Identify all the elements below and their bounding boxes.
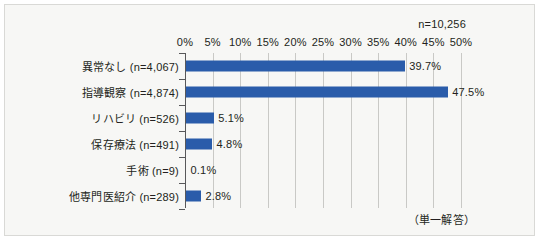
total-sample-size-label: n=10,256 [5, 18, 466, 30]
axis-tick-2 [179, 105, 185, 106]
category-label-2: リハビリ (n=526) [91, 110, 179, 126]
x-tick-label-4: 20% [284, 36, 307, 48]
category-label-1: 指導観察 (n=4,874) [82, 84, 179, 100]
category-label-0: 異常なし (n=4,067) [82, 58, 179, 74]
axis-tick-3 [179, 131, 185, 132]
answer-type-note: （単一解答） [5, 211, 475, 227]
x-tick-label-2: 10% [229, 36, 252, 48]
chart-row: リハビリ (n=526)5.1% [185, 105, 461, 131]
bar-value-label-2: 5.1% [218, 112, 244, 124]
x-tick-label-6: 30% [339, 36, 362, 48]
chart-row: 保存療法 (n=491)4.8% [185, 131, 461, 157]
axis-tick-0 [179, 53, 185, 54]
axis-tick-5 [179, 183, 185, 184]
axis-tick-end [179, 209, 185, 210]
chart-row: 指導観察 (n=4,874)47.5% [185, 79, 461, 105]
chart-frame: n=10,256 0%5%10%15%20%25%30%35%40%45%50%… [4, 4, 535, 236]
bar-value-label-0: 39.7% [409, 60, 441, 72]
bar-value-label-5: 2.8% [205, 190, 231, 202]
x-tick-label-7: 35% [367, 36, 390, 48]
bar-value-label-1: 47.5% [452, 86, 484, 98]
bar-5 [186, 191, 201, 202]
bar-value-label-3: 4.8% [216, 138, 242, 150]
bar-0 [186, 61, 405, 72]
x-tick-label-3: 15% [256, 36, 279, 48]
gridline-50% [461, 53, 462, 208]
bar-3 [186, 139, 212, 150]
bar-value-label-4: 0.1% [191, 164, 217, 176]
bar-2 [186, 113, 214, 124]
category-label-5: 他専門医紹介 (n=289) [69, 188, 179, 204]
chart-row: 他専門医紹介 (n=289)2.8% [185, 183, 461, 209]
category-label-3: 保存療法 (n=491) [91, 136, 179, 152]
x-tick-label-0: 0% [177, 36, 193, 48]
bar-1 [186, 87, 448, 98]
x-tick-label-1: 5% [204, 36, 220, 48]
axis-tick-1 [179, 79, 185, 80]
x-tick-label-9: 45% [422, 36, 445, 48]
category-label-4: 手術 (n=9) [126, 162, 179, 178]
x-tick-label-8: 40% [394, 36, 417, 48]
axis-tick-4 [179, 157, 185, 158]
chart-row: 手術 (n=9)0.1% [185, 157, 461, 183]
x-tick-label-5: 25% [312, 36, 335, 48]
x-tick-label-10: 50% [450, 36, 473, 48]
chart-row: 異常なし (n=4,067)39.7% [185, 53, 461, 79]
